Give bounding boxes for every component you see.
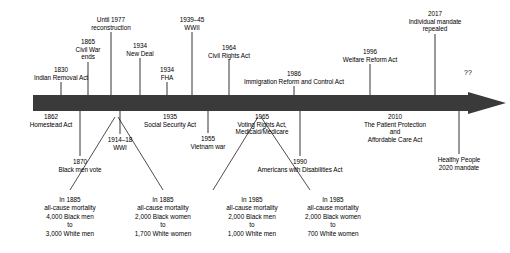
- event-label-line: 2020 mandate: [438, 164, 481, 172]
- event-label-line: Medicaid/Medicare: [236, 128, 289, 136]
- event-below-black-men-vote: 1870Black men vote: [59, 158, 102, 173]
- event-above-indian-removal-act: 1830Indian Removal Act: [34, 66, 88, 81]
- mortality-line: to: [226, 221, 278, 229]
- event-above-welfare-reform-act: 1996Welfare Reform Act: [343, 48, 397, 63]
- event-label-line: Immigration Reform and Control Act: [244, 78, 344, 86]
- event-label-line: 1955: [191, 135, 226, 143]
- mortality-line: In 1885: [135, 196, 191, 204]
- event-below-americans-with-disabilities-act: 1990Americans with Disabilities Act: [258, 158, 343, 173]
- event-label-line: Indian Removal Act: [34, 74, 88, 82]
- event-label-line: Welfare Reform Act: [343, 56, 397, 64]
- event-label-line: Until 1977: [91, 16, 130, 24]
- event-label-line: WWII: [180, 24, 205, 32]
- mortality-line: 2,000 Black men: [226, 213, 278, 221]
- event-label-line: Civil War: [76, 46, 101, 54]
- event-label-line: Voting Rights Act,: [236, 121, 289, 129]
- arrow-shape: [33, 92, 506, 114]
- mortality-line: 1,700 White women: [135, 230, 191, 238]
- mortality-line: 1,000 White men: [226, 230, 278, 238]
- event-label-line: 1914–18: [108, 136, 133, 144]
- event-below-healthy-people-2020-mandate: Healthy People2020 mandate: [438, 156, 481, 171]
- event-label-line: Individual mandate: [409, 18, 462, 26]
- mortality-callout-mortality-1885-men: In 1885all-cause mortality4,000 Black me…: [44, 196, 96, 238]
- event-label-line: reconstruction: [91, 24, 130, 32]
- mortality-line: In 1885: [44, 196, 96, 204]
- mortality-line: 2,000 Black women: [305, 213, 361, 221]
- event-below-wwi: 1914–18WWI: [108, 136, 133, 151]
- event-label-line: and: [364, 128, 426, 136]
- mortality-line: 4,000 Black men: [44, 213, 96, 221]
- event-below-affordable-care-act: 2010The Patient ProtectionandAffordable …: [364, 113, 426, 143]
- mortality-line: In 1985: [305, 196, 361, 204]
- mortality-callout-mortality-1965-men: In 1985all-cause mortality2,000 Black me…: [226, 196, 278, 238]
- event-label-line: Healthy People: [438, 156, 481, 164]
- mortality-line: In 1985: [226, 196, 278, 204]
- event-label-line: 1865: [76, 38, 101, 46]
- event-label-line: Affordable Care Act: [364, 136, 426, 144]
- event-label-line: 1870: [59, 158, 102, 166]
- event-above-civil-war-ends: 1865Civil Warends: [76, 38, 101, 61]
- event-label-line: FHA: [160, 74, 174, 82]
- event-label-line: 1986: [244, 70, 344, 78]
- event-below-vietnam-war: 1955Vietnam war: [191, 135, 226, 150]
- event-above-new-deal: 1934New Deal: [126, 42, 153, 57]
- event-below-social-security-act: 1935Social Security Act: [144, 113, 196, 128]
- event-label-line: The Patient Protection: [364, 121, 426, 129]
- event-label-line: Social Security Act: [144, 121, 196, 129]
- event-label-line: 1965: [236, 113, 289, 121]
- event-above-wwii: 1939–45WWII: [180, 16, 205, 31]
- event-label-line: 1934: [126, 42, 153, 50]
- leader-mortality-1885-men: [70, 117, 115, 190]
- event-label-line: 1934: [160, 66, 174, 74]
- event-label-line: Homestead Act: [30, 121, 73, 129]
- event-label-line: ends: [76, 53, 101, 61]
- mortality-line: all-cause mortality: [305, 204, 361, 212]
- event-label-line: New Deal: [126, 50, 153, 58]
- event-label-line: WWI: [108, 144, 133, 152]
- timeline-arrow: [33, 92, 506, 114]
- mortality-callout-mortality-1965-women: In 1985all-cause mortality2,000 Black wo…: [305, 196, 361, 238]
- event-label-line: repealed: [409, 25, 462, 33]
- mortality-line: 700 White women: [305, 230, 361, 238]
- event-label-line: 1996: [343, 48, 397, 56]
- event-label-line: 1990: [258, 158, 343, 166]
- event-label-line: 2017: [409, 10, 462, 18]
- event-above-fha: 1934FHA: [160, 66, 174, 81]
- mortality-line: all-cause mortality: [135, 204, 191, 212]
- event-label-line: Vietnam war: [191, 143, 226, 151]
- event-label-line: 1935: [144, 113, 196, 121]
- timeline-figure: 1830Indian Removal Act1865Civil WarendsU…: [0, 0, 510, 253]
- mortality-line: to: [135, 221, 191, 229]
- event-label-line: 1964: [208, 44, 250, 52]
- event-above-individual-mandate-repealed: 2017Individual mandaterepealed: [409, 10, 462, 33]
- mortality-line: all-cause mortality: [226, 204, 278, 212]
- event-label-line: Americans with Disabilities Act: [258, 166, 343, 174]
- event-above-civil-rights-act: 1964Civil Rights Act: [208, 44, 250, 59]
- event-below-homestead-act: 1862Homestead Act: [30, 113, 73, 128]
- mortality-line: 2,000 Black women: [135, 213, 191, 221]
- event-label-line: 1862: [30, 113, 73, 121]
- event-below-voting-rights-medicaid-medicare: 1965Voting Rights Act,Medicaid/Medicare: [236, 113, 289, 136]
- future-question-marker: ??: [464, 69, 472, 76]
- event-above-immigration-reform-and-control-act: 1986Immigration Reform and Control Act: [244, 70, 344, 85]
- event-label-line: 1830: [34, 66, 88, 74]
- event-label-line: 1939–45: [180, 16, 205, 24]
- mortality-callout-mortality-1885-women: In 1885all-cause mortality2,000 Black wo…: [135, 196, 191, 238]
- event-above-reconstruction: Until 1977reconstruction: [91, 16, 130, 31]
- event-label-line: Black men vote: [59, 166, 102, 174]
- mortality-line: to: [305, 221, 361, 229]
- event-label-line: 2010: [364, 113, 426, 121]
- mortality-line: to: [44, 221, 96, 229]
- mortality-line: all-cause mortality: [44, 204, 96, 212]
- mortality-line: 3,000 White men: [44, 230, 96, 238]
- event-label-line: Civil Rights Act: [208, 52, 250, 60]
